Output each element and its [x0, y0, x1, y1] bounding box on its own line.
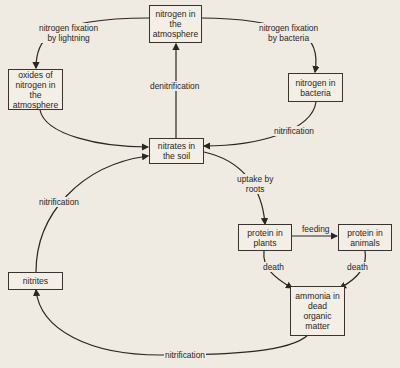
label-nitrification-nitrites: nitrification	[38, 197, 80, 207]
label-denitrification: denitrification	[149, 81, 200, 91]
label-feeding: feeding	[301, 224, 330, 234]
node-nitrites: nitrites	[8, 272, 63, 290]
label-fixation-bacteria: nitrogen fixation by bacteria	[258, 23, 319, 43]
label-fixation-lightning: nitrogen fixation by lightning	[38, 23, 99, 43]
node-oxides-of-nitrogen: oxides of nitrogen in the atmosphere	[8, 69, 63, 110]
node-nitrogen-in-atmosphere: nitrogen in the atmosphere	[149, 5, 202, 43]
node-ammonia-dead-organic-matter: ammonia in dead organic matter	[290, 286, 345, 336]
label-death-animals: death	[346, 262, 369, 272]
label-uptake-by-roots: uptake by roots	[236, 174, 274, 194]
node-nitrogen-in-bacteria: nitrogen in bacteria	[288, 73, 343, 102]
node-nitrates-in-soil: nitrates in the soil	[149, 138, 204, 164]
label-nitrification-bacteria: nitrification	[273, 126, 315, 136]
label-death-plants: death	[262, 262, 285, 272]
label-nitrification-ammonia: nitrification	[164, 350, 206, 360]
node-protein-in-plants: protein in plants	[238, 224, 292, 251]
node-protein-in-animals: protein in animals	[338, 224, 392, 251]
